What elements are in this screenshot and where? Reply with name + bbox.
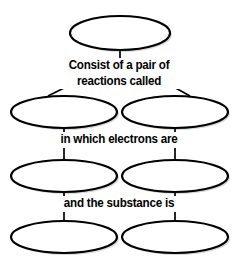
link-label-electrons-line1: in which electrons are	[8, 132, 229, 148]
link-label-substance-line1: and the substance is	[8, 196, 229, 212]
link-label-electrons: in which electrons are	[8, 132, 229, 148]
node-row2-left[interactable]	[11, 96, 117, 128]
node-row2-right[interactable]	[122, 96, 228, 128]
link-label-pair-line1: Consist of a pair of	[8, 58, 229, 74]
concept-map-diagram: Consist of a pair of reactions called in…	[0, 0, 238, 270]
link-label-pair-line2: reactions called	[8, 74, 229, 90]
node-row3-left[interactable]	[11, 160, 117, 192]
link-label-pair: Consist of a pair of reactions called	[8, 58, 229, 89]
node-top[interactable]	[70, 16, 170, 50]
node-row4-right[interactable]	[122, 221, 228, 253]
node-row3-right[interactable]	[122, 160, 228, 192]
node-row4-left[interactable]	[11, 221, 117, 253]
link-label-substance: and the substance is	[8, 196, 229, 212]
